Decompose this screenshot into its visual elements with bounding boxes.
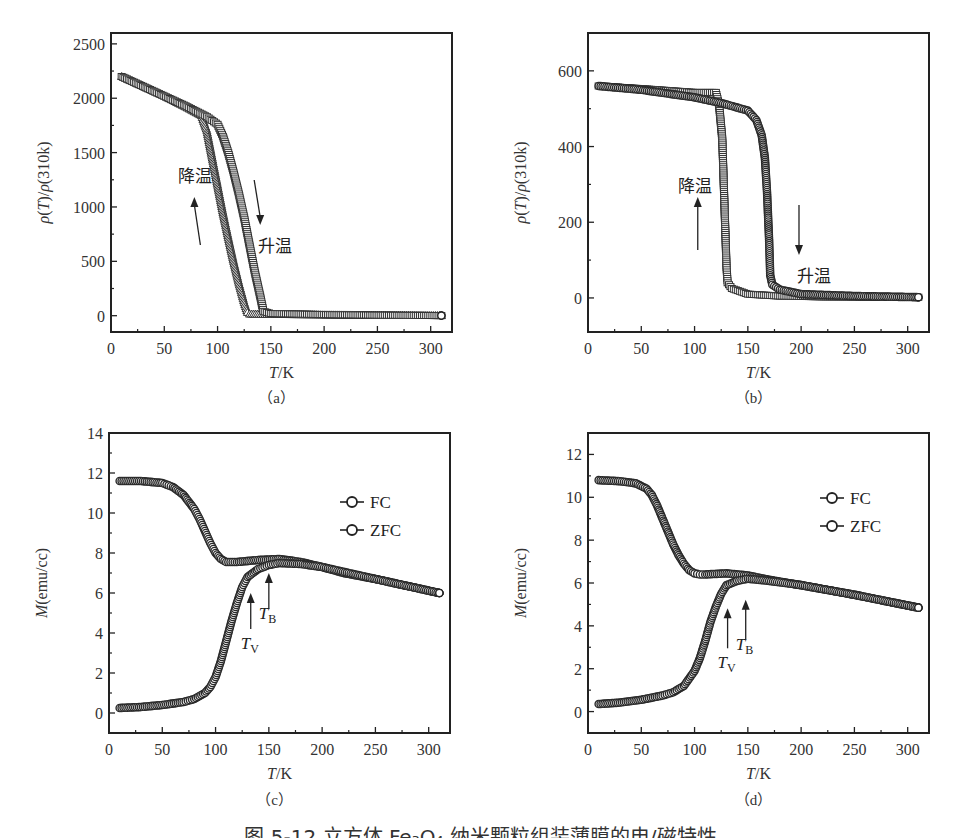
series-zfc xyxy=(595,575,922,708)
annotation: TB xyxy=(259,573,276,626)
x-tick-label: 300 xyxy=(417,741,441,758)
x-tick-label: 50 xyxy=(633,741,649,758)
figure-canvas: 050100150200250300T/K0500100015002000250… xyxy=(0,0,961,838)
y-tick-label: 2000 xyxy=(73,90,105,107)
x-tick-label: 50 xyxy=(156,340,172,357)
x-axis: 050100150200250300T/K xyxy=(107,326,443,381)
annotation-label: TV xyxy=(241,634,259,656)
x-tick-label: 50 xyxy=(154,741,170,758)
annotation: TB xyxy=(736,600,753,657)
annotation: TV xyxy=(718,608,736,675)
x-axis: 050100150200250300T/K xyxy=(105,727,441,782)
legend: FCZFC xyxy=(820,489,881,536)
y-tick-label: 2 xyxy=(95,665,103,682)
legend: FCZFC xyxy=(340,493,401,540)
annotation: 降温 xyxy=(678,176,712,250)
y-tick-label: 10 xyxy=(566,489,582,506)
plot-frame xyxy=(111,33,452,332)
series-zfc xyxy=(116,559,443,711)
annotation-label: 升温 xyxy=(797,266,831,286)
x-tick-label: 250 xyxy=(363,741,387,758)
x-tick-label: 150 xyxy=(736,340,760,357)
x-tick-label: 300 xyxy=(419,340,443,357)
legend-entry-label: FC xyxy=(370,493,391,512)
x-tick-label: 200 xyxy=(312,340,336,357)
x-axis-label: T/K xyxy=(269,364,294,381)
legend-entry-label: ZFC xyxy=(850,517,881,536)
x-tick-label: 150 xyxy=(736,741,760,758)
x-tick-label: 200 xyxy=(789,340,813,357)
x-tick-label: 200 xyxy=(310,741,334,758)
y-tick-label: 4 xyxy=(574,618,582,635)
panel-label: （b） xyxy=(735,390,773,406)
y-tick-label: 2 xyxy=(574,661,582,678)
y-tick-label: 0 xyxy=(97,308,105,325)
chart-panel-c: 050100150200250300T/K02468101214M(emu/cc… xyxy=(33,425,450,808)
x-tick-label: 100 xyxy=(206,340,230,357)
y-tick-label: 8 xyxy=(574,532,582,549)
legend-marker-icon xyxy=(827,493,837,503)
x-tick-label: 300 xyxy=(896,741,920,758)
x-tick-label: 0 xyxy=(107,340,115,357)
x-axis: 050100150200250300T/K xyxy=(584,326,920,381)
series-升温 xyxy=(595,82,922,300)
y-axis: 0200400600ρ(T)/ρ(310k) xyxy=(512,63,594,307)
y-tick-label: 500 xyxy=(81,253,105,270)
arrow-down-icon xyxy=(795,245,803,255)
panel-label: （a） xyxy=(258,390,295,406)
x-tick-label: 150 xyxy=(257,741,281,758)
y-tick-label: 200 xyxy=(558,214,582,231)
series-降温 xyxy=(118,72,446,319)
x-tick-label: 0 xyxy=(105,741,113,758)
annotation-label: 降温 xyxy=(678,176,712,196)
series-降温 xyxy=(595,83,922,301)
chart-panel-b: 050100150200250300T/K0200400600ρ(T)/ρ(31… xyxy=(512,33,929,406)
chart-panel-a: 050100150200250300T/K0500100015002000250… xyxy=(35,33,452,406)
y-tick-label: 2500 xyxy=(73,36,105,53)
arrow-up-icon xyxy=(694,197,702,207)
y-axis-label: ρ(T)/ρ(310k) xyxy=(512,141,530,224)
x-tick-label: 0 xyxy=(584,741,592,758)
y-tick-label: 0 xyxy=(95,705,103,722)
annotation-label: TB xyxy=(736,635,753,657)
x-tick-label: 100 xyxy=(683,340,707,357)
x-tick-label: 150 xyxy=(259,340,283,357)
y-tick-label: 8 xyxy=(95,545,103,562)
arrow-down-icon xyxy=(256,215,264,225)
x-tick-label: 100 xyxy=(683,741,707,758)
y-tick-label: 10 xyxy=(87,505,103,522)
y-tick-label: 1500 xyxy=(73,145,105,162)
x-tick-label: 200 xyxy=(789,741,813,758)
x-tick-label: 250 xyxy=(842,741,866,758)
y-tick-label: 12 xyxy=(566,446,582,463)
panel-label: （d） xyxy=(735,792,773,808)
legend-entry-label: ZFC xyxy=(370,521,401,540)
y-tick-label: 12 xyxy=(87,465,103,482)
annotation: TV xyxy=(241,593,259,656)
series-升温 xyxy=(118,73,445,319)
x-tick-label: 50 xyxy=(633,340,649,357)
y-tick-label: 6 xyxy=(95,585,103,602)
arrow-up-icon xyxy=(742,600,750,610)
x-tick-label: 300 xyxy=(896,340,920,357)
x-axis-label: T/K xyxy=(746,364,771,381)
annotation-label: 降温 xyxy=(178,166,212,186)
arrow-up-icon xyxy=(247,593,255,603)
y-tick-label: 14 xyxy=(87,425,103,442)
annotation-label: TV xyxy=(718,653,736,675)
figure-caption: 图 5-12 立方体 Fe₃O₄ 纳米颗粒组装薄膜的电/磁特性 xyxy=(0,822,961,838)
y-axis-label: M(emu/cc) xyxy=(33,548,51,619)
x-axis: 050100150200250300T/K xyxy=(584,727,920,782)
annotation: 升温 xyxy=(795,205,831,286)
annotation: 降温 xyxy=(178,166,212,245)
legend-entry-label: FC xyxy=(850,489,871,508)
y-axis: 05001000150020002500ρ(T)/ρ(310k) xyxy=(35,36,117,325)
y-axis-label: M(emu/cc) xyxy=(512,548,530,619)
legend-marker-icon xyxy=(347,525,357,535)
y-tick-label: 0 xyxy=(574,290,582,307)
annotation-label: 升温 xyxy=(258,236,292,256)
y-tick-label: 400 xyxy=(558,139,582,156)
x-tick-label: 0 xyxy=(584,340,592,357)
annotation: 升温 xyxy=(254,180,292,256)
arrow-up-icon xyxy=(724,608,732,618)
